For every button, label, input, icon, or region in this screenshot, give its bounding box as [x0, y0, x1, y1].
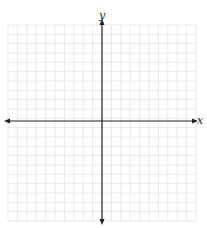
y-axis-arrow-down-icon	[100, 219, 105, 225]
coordinate-plane: y x	[0, 0, 207, 228]
grid-and-axes	[0, 0, 207, 228]
x-axis-label: x	[197, 115, 203, 126]
x-axis-arrow-left-icon	[4, 119, 10, 124]
axes	[4, 19, 198, 225]
y-axis-label: y	[99, 10, 105, 21]
